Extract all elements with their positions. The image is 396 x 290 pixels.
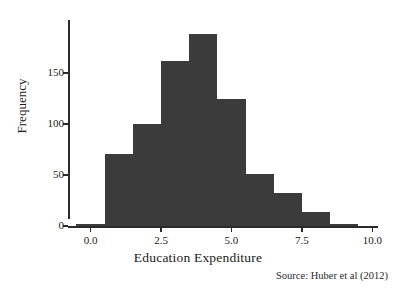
histogram-bar (274, 193, 302, 226)
x-axis-spine (68, 226, 378, 228)
x-tick-mark (90, 227, 91, 232)
x-tick-mark (160, 227, 161, 232)
y-tick-label: 50 (53, 169, 64, 180)
x-tick-label: 0.0 (71, 234, 111, 246)
histogram-bar (189, 34, 217, 226)
x-tick-label: 10.0 (352, 234, 392, 246)
source-note: Source: Huber et al (2012) (276, 270, 388, 281)
histogram-bar (133, 124, 161, 226)
histogram-bar (105, 154, 133, 226)
x-tick-label: 7.5 (282, 234, 322, 246)
histogram-bar (76, 224, 104, 226)
y-tick-label: 100 (48, 118, 65, 129)
x-tick-mark (231, 227, 232, 232)
histogram-bar (330, 224, 358, 226)
y-axis-spine (68, 20, 70, 219)
histogram-bar (302, 212, 330, 226)
x-tick-label: 5.0 (211, 234, 251, 246)
y-tick-label: 0 (59, 220, 65, 231)
x-tick-mark (372, 227, 373, 232)
histogram-bar (217, 99, 245, 227)
histogram-figure: 050100150 0.02.55.07.510.0 Frequency Edu… (0, 0, 396, 290)
histogram-bar (246, 174, 274, 226)
histogram-bar (161, 61, 189, 226)
y-tick-label: 150 (48, 67, 65, 78)
x-axis-title: Education Expenditure (0, 250, 396, 266)
x-tick-mark (301, 227, 302, 232)
x-tick-label: 2.5 (141, 234, 181, 246)
y-axis-title: Frequency (14, 46, 30, 166)
